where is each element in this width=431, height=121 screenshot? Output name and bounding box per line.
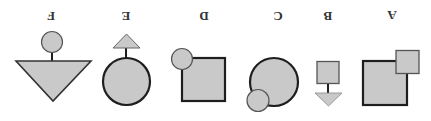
- circle-icon: [42, 32, 63, 53]
- triangle-icon: [16, 61, 91, 101]
- square-icon: [317, 62, 339, 84]
- label-a: A: [387, 8, 397, 23]
- label-c: C: [273, 9, 282, 24]
- svg-text:E: E: [122, 9, 131, 24]
- svg-text:F: F: [47, 9, 55, 24]
- shape-diagram: F E D C B A: [0, 0, 431, 121]
- svg-text:C: C: [273, 9, 282, 24]
- label-e: E: [122, 9, 131, 24]
- label-b: B: [323, 9, 332, 24]
- circle-icon: [172, 49, 193, 70]
- label-d: D: [199, 9, 208, 24]
- triangle-icon: [315, 93, 342, 106]
- figure-d: [172, 49, 226, 102]
- figure-b: [315, 62, 342, 107]
- figure-e: [103, 34, 150, 105]
- label-f: F: [47, 9, 55, 24]
- circle-icon: [103, 58, 150, 105]
- triangle-icon: [113, 34, 140, 48]
- small-square-icon: [396, 51, 419, 74]
- figure-a: [363, 51, 419, 106]
- svg-text:A: A: [387, 8, 397, 23]
- figure-f: [16, 32, 91, 102]
- figure-c: [247, 58, 298, 112]
- small-circle-icon: [247, 90, 269, 112]
- svg-text:B: B: [323, 9, 332, 24]
- svg-text:D: D: [199, 9, 208, 24]
